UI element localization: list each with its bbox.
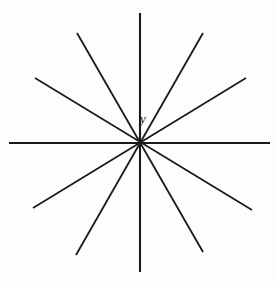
figure-canvas: y xyxy=(0,0,276,283)
y-axis-label: y xyxy=(138,111,146,126)
star-line-diagram: y xyxy=(0,0,276,283)
